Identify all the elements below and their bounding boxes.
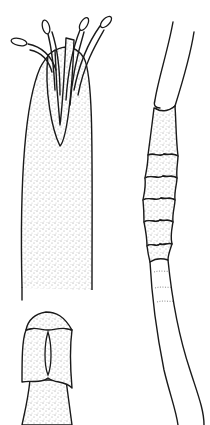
stalk-tube-left-edge xyxy=(150,262,178,425)
segment-aperture xyxy=(45,332,51,375)
segment-cap xyxy=(26,312,72,330)
stalk-faint-ring-3 xyxy=(157,301,174,302)
tentacle-tip-4 xyxy=(99,15,114,30)
stalk-ring-6 xyxy=(147,243,172,262)
panel-polyp-with-tentacles xyxy=(10,15,113,300)
stalk-upper-left-edge xyxy=(154,22,173,108)
tentacle-tip-3 xyxy=(77,16,90,32)
stalk-ring-1 xyxy=(148,106,178,156)
stalk-ring-4 xyxy=(143,198,175,222)
stalk-faint-ring-1 xyxy=(154,271,170,272)
stalk-ring-3 xyxy=(143,176,177,200)
panel-segment-detail xyxy=(22,312,72,425)
stalk-tube-right-edge xyxy=(168,260,204,425)
illustration-canvas xyxy=(0,0,210,425)
panel-annulated-stalk xyxy=(143,22,204,425)
illustration xyxy=(0,0,210,425)
stalk-upper-right-edge xyxy=(175,32,194,106)
stalk-faint-ring-2 xyxy=(155,287,172,288)
tentacle-tip-2 xyxy=(41,19,51,34)
segment-lower-tube xyxy=(22,380,72,425)
stalk-ring-5 xyxy=(144,220,173,246)
tentacle-tip-1 xyxy=(10,37,27,47)
stalk-ring-2 xyxy=(145,154,178,178)
